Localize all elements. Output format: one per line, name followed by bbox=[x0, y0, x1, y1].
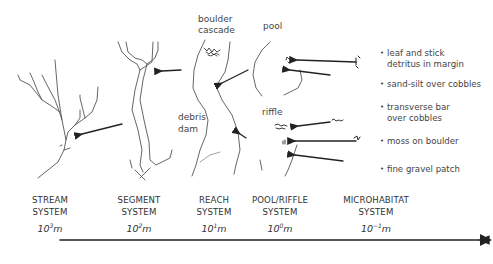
microhabitat-item: transverse bar over cobbles bbox=[387, 102, 450, 124]
scale-name: SEGMENT bbox=[118, 195, 161, 205]
label-dam: dam bbox=[178, 124, 198, 135]
microhabitat-text: detritus in margin bbox=[387, 59, 464, 69]
magnitude-microhabitat: 10−1m bbox=[336, 222, 416, 234]
magnitude-pool-riffle: 100m bbox=[245, 222, 315, 234]
microhabitat-text: moss on boulder bbox=[387, 136, 459, 146]
reach-sketch bbox=[192, 40, 240, 176]
label-boulder: boulder bbox=[198, 14, 232, 25]
scale-stream: STREAM SYSTEM bbox=[20, 194, 80, 218]
segment-channel-sketch bbox=[118, 42, 172, 180]
axis-arrowhead bbox=[480, 234, 492, 246]
scale-name: SYSTEM bbox=[263, 207, 298, 217]
label-debris: debris bbox=[178, 112, 206, 123]
microhabitat-item: sand-silt over cobbles bbox=[387, 79, 481, 90]
scale-name: POOL/RIFFLE bbox=[252, 195, 308, 205]
microhabitat-item: fine gravel patch bbox=[387, 164, 460, 175]
microhabitat-markers bbox=[354, 56, 360, 140]
scale-reach: REACH SYSTEM bbox=[184, 194, 244, 218]
scale-name: SYSTEM bbox=[122, 207, 157, 217]
stream-network-sketch bbox=[18, 60, 98, 178]
scale-name: MICROHABITAT bbox=[343, 195, 409, 205]
microhabitat-item: leaf and stick detritus in margin bbox=[387, 48, 464, 70]
microhabitat-text: over cobbles bbox=[387, 113, 442, 123]
scale-name: SYSTEM bbox=[359, 207, 394, 217]
scale-pool-riffle: POOL/RIFFLE SYSTEM bbox=[245, 194, 315, 218]
scale-microhabitat: MICROHABITAT SYSTEM bbox=[336, 194, 416, 218]
microhabitat-text: sand-silt over cobbles bbox=[387, 79, 481, 89]
label-riffle: riffle bbox=[262, 107, 282, 118]
label-cascade: cascade bbox=[198, 25, 235, 36]
magnitude-segment: 102m bbox=[104, 222, 174, 234]
magnitude-reach: 101m bbox=[184, 222, 244, 234]
microhabitat-text: transverse bar bbox=[387, 102, 450, 112]
boulder-cluster bbox=[204, 48, 220, 56]
microhabitat-item: moss on boulder bbox=[387, 136, 459, 147]
microhabitat-text: leaf and stick bbox=[387, 48, 445, 58]
riffle-stones bbox=[275, 57, 343, 144]
scale-name: SYSTEM bbox=[33, 207, 68, 217]
microhabitat-text: fine gravel patch bbox=[387, 164, 460, 174]
scale-segment: SEGMENT SYSTEM bbox=[104, 194, 174, 218]
scale-name: REACH bbox=[199, 195, 229, 205]
scale-name: STREAM bbox=[32, 195, 68, 205]
scale-name: SYSTEM bbox=[197, 207, 232, 217]
label-pool: pool bbox=[263, 21, 282, 32]
magnitude-stream: 103m bbox=[20, 222, 80, 234]
